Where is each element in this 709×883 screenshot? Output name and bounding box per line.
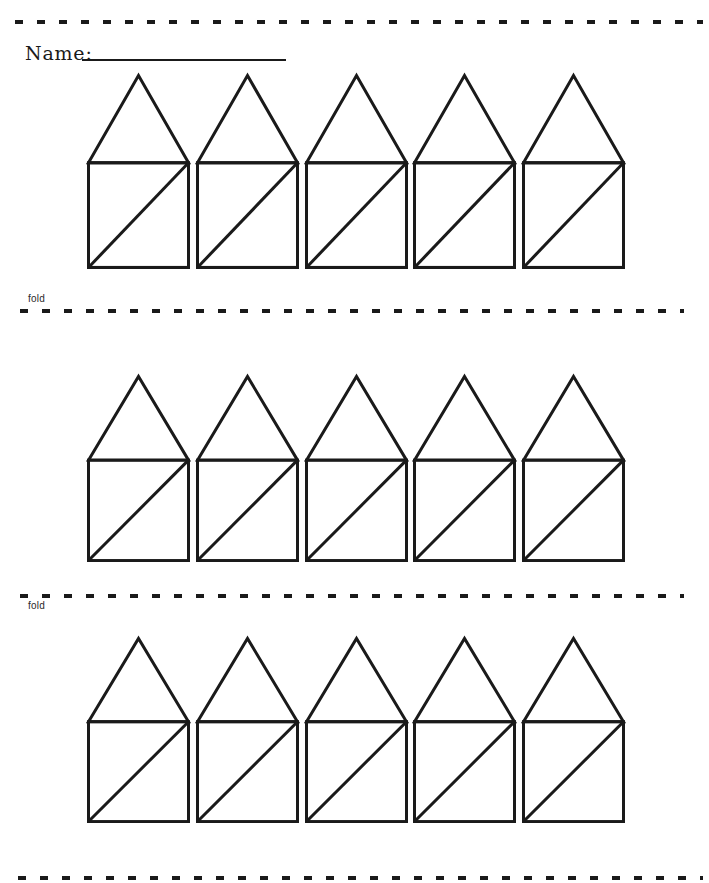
house-diagonal-line (524, 460, 624, 560)
house-shape (196, 637, 299, 823)
house-diagonal-line (89, 163, 189, 268)
house-shape (413, 375, 516, 562)
house-roof-triangle (198, 376, 298, 460)
house-shape (305, 637, 408, 823)
house-roof-triangle (307, 376, 407, 460)
house-diagonal-line (415, 163, 515, 268)
house-roof-triangle (307, 76, 407, 163)
name-input-line[interactable] (82, 59, 286, 61)
dashed-cut-line-top (15, 20, 703, 24)
house-shape (305, 74, 408, 269)
fold-label-2: fold (28, 601, 45, 611)
house-roof-triangle (524, 638, 624, 721)
house-diagonal-line (307, 722, 407, 822)
house-roof-triangle (89, 376, 189, 460)
house-roof-triangle (89, 76, 189, 163)
house-diagonal-line (198, 460, 298, 560)
house-diagonal-line (307, 163, 407, 268)
house-diagonal-line (198, 722, 298, 822)
house-roof-triangle (415, 376, 515, 460)
house-shape (522, 74, 625, 269)
house-diagonal-line (415, 460, 515, 560)
house-shape (87, 375, 190, 562)
dashed-fold-line-1 (20, 309, 684, 313)
house-diagonal-line (415, 722, 515, 822)
houses-row-3 (87, 637, 627, 823)
house-shape (305, 375, 408, 562)
house-diagonal-line (524, 722, 624, 822)
house-diagonal-line (524, 163, 624, 268)
house-roof-triangle (89, 638, 189, 721)
house-roof-triangle (524, 376, 624, 460)
house-diagonal-line (89, 460, 189, 560)
houses-row-1 (87, 74, 627, 269)
house-roof-triangle (415, 638, 515, 721)
worksheet-page: Name: fold fold (0, 0, 709, 883)
house-roof-triangle (307, 638, 407, 721)
house-roof-triangle (198, 76, 298, 163)
house-roof-triangle (198, 638, 298, 721)
dashed-cut-line-bottom (18, 876, 703, 880)
house-diagonal-line (89, 722, 189, 822)
house-roof-triangle (524, 76, 624, 163)
house-diagonal-line (198, 163, 298, 268)
house-shape (87, 637, 190, 823)
house-shape (87, 74, 190, 269)
house-shape (413, 74, 516, 269)
houses-row-2 (87, 375, 627, 562)
dashed-fold-line-2 (20, 594, 684, 598)
house-roof-triangle (415, 76, 515, 163)
house-shape (522, 375, 625, 562)
house-diagonal-line (307, 460, 407, 560)
fold-label-1: fold (28, 294, 45, 304)
house-shape (413, 637, 516, 823)
house-shape (196, 375, 299, 562)
house-shape (196, 74, 299, 269)
house-shape (522, 637, 625, 823)
